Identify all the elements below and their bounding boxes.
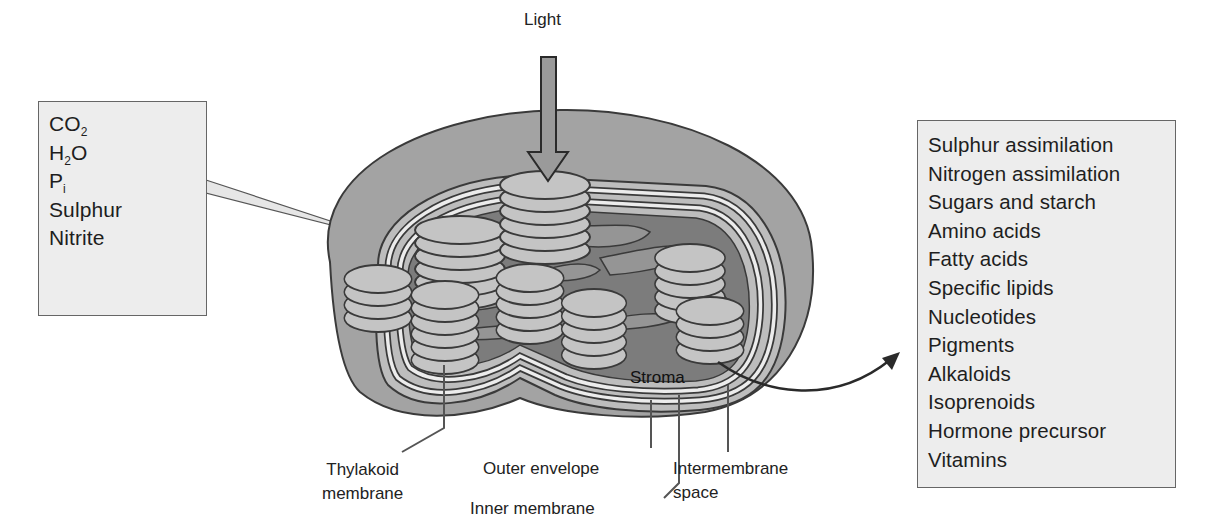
grana-stack-4 [344, 265, 412, 332]
outputs-box: Sulphur assimilation Nitrogen assimilati… [917, 120, 1176, 488]
thylakoid-label-line2: membrane [322, 482, 403, 506]
output-item: Nucleotides [928, 303, 1175, 332]
grana-stack-6 [411, 281, 479, 374]
inner-membrane-label: Inner membrane [470, 497, 595, 521]
input-item-h2o: H2O [49, 139, 206, 168]
output-item: Specific lipids [928, 274, 1175, 303]
stroma-label: Stroma [630, 366, 685, 390]
grana-stack-7 [562, 289, 627, 369]
inputs-box: CO2 H2O Pi Sulphur Nitrite [38, 101, 207, 316]
output-item: Nitrogen assimilation [928, 160, 1175, 189]
thylakoid-membrane-label: Thylakoid membrane [322, 458, 403, 506]
intermembrane-space-label: Intermembrane space [673, 457, 788, 505]
grana-stack-2 [500, 171, 590, 264]
output-item: Alkaloids [928, 360, 1175, 389]
output-item: Pigments [928, 331, 1175, 360]
output-item: Sulphur assimilation [928, 131, 1175, 160]
output-item: Fatty acids [928, 245, 1175, 274]
grana-stack-5 [496, 264, 564, 344]
input-item-co2: CO2 [49, 110, 206, 139]
intermembrane-label-line1: Intermembrane [673, 457, 788, 481]
input-item-pi: Pi [49, 167, 206, 196]
output-item: Sugars and starch [928, 188, 1175, 217]
light-label: Light [524, 8, 561, 32]
output-item: Hormone precursor [928, 417, 1175, 446]
grana-stack-8 [676, 297, 744, 364]
thylakoid-label-line1: Thylakoid [322, 458, 403, 482]
input-item-sulphur: Sulphur [49, 196, 206, 225]
input-item-nitrite: Nitrite [49, 224, 206, 253]
outer-envelope-label: Outer envelope [483, 457, 599, 481]
output-item: Isoprenoids [928, 388, 1175, 417]
intermembrane-label-line2: space [673, 481, 788, 505]
output-item: Amino acids [928, 217, 1175, 246]
output-item: Vitamins [928, 446, 1175, 475]
